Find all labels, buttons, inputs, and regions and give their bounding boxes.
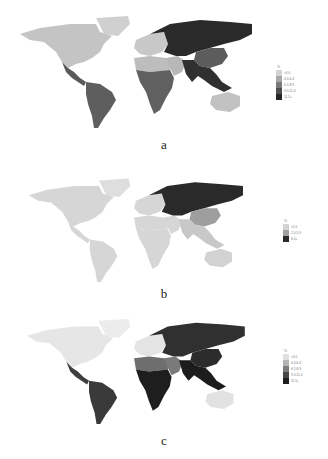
panel-c: % <4.04.0-6.46.5-8.99.0-11.411.5+ c (0, 302, 328, 459)
legend-label: 2.0-5.9 (291, 231, 301, 235)
world-map-a (0, 0, 270, 130)
region-central-america (66, 362, 89, 385)
legend-item: 11.5+ (283, 378, 302, 384)
region-sub-saharan-africa (136, 228, 171, 269)
map-regions (27, 319, 245, 424)
legend-label: <2.0 (291, 225, 297, 229)
legend-unit: % (277, 65, 280, 69)
legend-label: 11.5+ (284, 95, 292, 99)
legend-a: % <4.04.0-6.46.5-8.99.0-11.411.5+ (276, 70, 295, 100)
legend-label: <4.0 (284, 71, 290, 75)
region-australia (205, 390, 233, 409)
region-central-america (62, 62, 86, 86)
region-sub-saharan-africa (136, 70, 174, 114)
region-north-america (20, 24, 112, 68)
legend-label: 9.0-11.4 (284, 89, 295, 93)
region-north-america (27, 326, 113, 367)
region-sub-saharan-africa (136, 370, 172, 411)
legend-unit: % (284, 219, 287, 223)
legend-swatch (283, 236, 289, 242)
legend-c: % <4.04.0-6.46.5-8.99.0-11.411.5+ (283, 354, 302, 384)
legend-label: 9.0-11.4 (291, 373, 302, 377)
map-regions (20, 16, 252, 128)
region-south-america (89, 381, 117, 424)
legend-label: 11.5+ (291, 379, 299, 383)
legend-b: % <2.02.0-5.96.0+ (283, 224, 301, 242)
legend-item: 6.0+ (283, 236, 301, 242)
region-australia (210, 92, 240, 112)
legend-label: 6.0+ (291, 237, 297, 241)
region-south-america (90, 240, 118, 282)
legend-swatch (283, 378, 289, 384)
region-north-america (29, 186, 114, 227)
world-map-c (0, 302, 270, 424)
legend-label: 4.0-6.4 (284, 77, 294, 81)
legend-label: 6.5-8.9 (291, 367, 301, 371)
legend-label: 6.5-8.9 (284, 83, 294, 87)
region-south-america (86, 82, 116, 128)
caption-b: b (0, 286, 328, 302)
panel-b: % <2.02.0-5.96.0+ b (0, 162, 328, 302)
legend-unit: % (284, 349, 287, 353)
map-regions (29, 179, 243, 282)
panel-a: % <4.04.0-6.46.5-8.99.0-11.411.5+ a (0, 0, 328, 160)
region-australia (204, 249, 232, 267)
region-europe (134, 334, 166, 357)
world-map-b (0, 162, 270, 282)
legend-label: <4.0 (291, 355, 297, 359)
caption-a: a (0, 137, 328, 153)
legend-swatch (276, 94, 282, 100)
region-europe (134, 193, 165, 215)
legend-item: 11.5+ (276, 94, 295, 100)
region-europe (134, 32, 168, 56)
legend-label: 4.0-6.4 (291, 361, 301, 365)
caption-c: c (0, 433, 328, 449)
